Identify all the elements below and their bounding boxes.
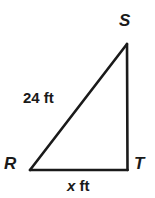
side-length-label-base: x ft	[67, 178, 90, 193]
side-vertical-ST	[127, 44, 128, 170]
vertex-label-s: S	[119, 12, 130, 29]
vertex-label-t: T	[134, 155, 144, 172]
side-hypotenuse-RS	[30, 44, 127, 170]
geometry-figure: S R T 24 ft x ft	[0, 0, 155, 198]
vertex-label-r: R	[4, 155, 16, 172]
side-length-label-hypotenuse: 24 ft	[23, 90, 54, 105]
base-unit: ft	[80, 177, 90, 194]
base-variable-x: x	[67, 177, 75, 194]
